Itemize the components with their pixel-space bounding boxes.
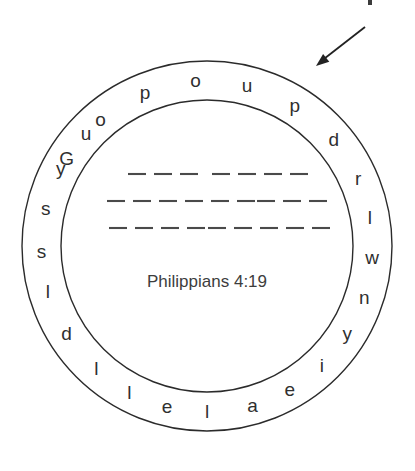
ring-letter: l: [127, 382, 131, 403]
ring-letter: r: [355, 168, 362, 189]
ring-letter: e: [284, 379, 295, 400]
pointer-arrow-group: [316, 27, 365, 66]
ring-letter: u: [81, 123, 92, 144]
ring-letter: o: [95, 109, 106, 130]
crop-mark: [368, 0, 372, 5]
ring-letter: o: [190, 70, 201, 91]
answer-blank-lines: [107, 174, 330, 228]
ring-letter: l: [368, 207, 372, 228]
ring-letter: d: [328, 129, 339, 150]
ring-letter: e: [162, 396, 173, 417]
ring-letter: l: [205, 401, 209, 422]
crop-mark-group: [368, 0, 372, 5]
ring-letters: Gopoupdrlwnyiealelldlssyu: [37, 70, 379, 422]
outer-ring-circle: [22, 61, 392, 431]
ring-letter: a: [247, 395, 258, 416]
ring-letter: w: [364, 247, 379, 268]
ring-letter: d: [61, 323, 72, 344]
ring-letter: u: [242, 75, 253, 96]
ring-letter: i: [320, 355, 324, 376]
word-circle-diagram: Gopoupdrlwnyiealelldlssyu Philippians 4:…: [0, 0, 415, 471]
ring-letter: n: [359, 287, 370, 308]
ring-letter: p: [140, 82, 151, 103]
ring-letter: s: [41, 198, 51, 219]
ring-letter: s: [37, 241, 47, 262]
ring-letter: y: [343, 323, 353, 344]
verse-reference-label: Philippians 4:19: [147, 272, 267, 291]
pointer-arrow-shaft: [320, 27, 365, 62]
ring-letter: y: [56, 158, 66, 179]
ring-letter: l: [46, 281, 50, 302]
inner-ring-circle: [61, 100, 353, 392]
ring-letter: l: [94, 358, 98, 379]
puzzle-canvas: Gopoupdrlwnyiealelldlssyu Philippians 4:…: [0, 0, 415, 471]
circle-outlines: [22, 61, 392, 431]
ring-letter: p: [289, 95, 300, 116]
